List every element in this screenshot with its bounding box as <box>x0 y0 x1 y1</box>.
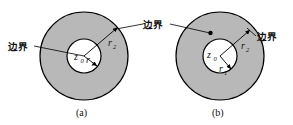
r2-label-b: r <box>241 40 245 51</box>
r1-subscript-a: 1 <box>91 60 94 67</box>
r1-subscript-b: 1 <box>224 69 227 76</box>
boundary-label-left-a: 边界 <box>7 41 28 52</box>
figure-diagram: z 0 r 1 r 2 (a) z 0 r 1 r <box>0 0 293 125</box>
boundary-label-right-b: 边界 <box>256 31 277 42</box>
z0-label-b: z <box>206 49 211 60</box>
caption-b: (b) <box>212 107 224 119</box>
r1-label-b: r <box>219 63 223 74</box>
r2-label-a: r <box>108 37 112 48</box>
caption-a: (a) <box>76 107 87 119</box>
boundary-label-middle: 边界 <box>142 19 163 30</box>
r1-label-a: r <box>86 54 90 65</box>
z0-label-a: z <box>73 51 78 62</box>
boundary-point-dot-b <box>208 31 212 35</box>
figure-container: z 0 r 1 r 2 (a) z 0 r 1 r <box>0 0 293 125</box>
